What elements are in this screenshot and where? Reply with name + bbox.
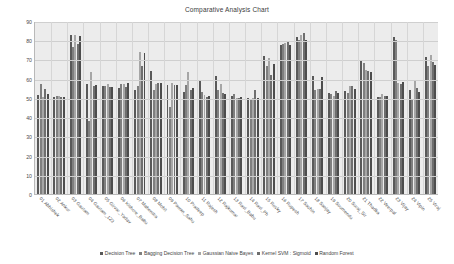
bar — [273, 64, 275, 194]
bar-group — [132, 22, 148, 194]
gridline-vertical — [213, 22, 214, 194]
plot-area: 0102030405060708090 — [34, 22, 438, 195]
gridline-vertical — [132, 22, 133, 194]
legend-swatch-icon — [315, 252, 318, 255]
x-axis-tick-label: 08 Mohit — [152, 196, 169, 213]
bars-layer — [35, 22, 438, 194]
bar — [192, 88, 194, 194]
bar-group — [35, 22, 51, 194]
legend-label: Bagging Decision Tree — [144, 250, 194, 256]
legend-label: Gaussian Naive Bayes — [203, 250, 254, 256]
gridline-horizontal — [35, 60, 438, 61]
gridline-vertical — [374, 22, 375, 194]
bar-group — [148, 22, 164, 194]
bar — [289, 45, 291, 194]
gridline-vertical — [342, 22, 343, 194]
y-axis-tick-label: 10 — [26, 173, 32, 179]
bar — [305, 40, 307, 194]
x-axis-tick-label: 25 Viraj — [426, 196, 441, 211]
chart-legend: Decision TreeBagging Decision TreeGaussi… — [0, 250, 454, 256]
legend-item[interactable]: Decision Tree — [100, 250, 135, 256]
y-axis-tick-label: 0 — [29, 192, 32, 198]
bar-group — [213, 22, 229, 194]
legend-item[interactable]: Bagging Decision Tree — [139, 250, 194, 256]
legend-item[interactable]: Random Forest — [315, 250, 354, 256]
gridline-vertical — [277, 22, 278, 194]
gridline-horizontal — [35, 22, 438, 23]
gridline-horizontal — [35, 80, 438, 81]
bar-group — [342, 22, 358, 194]
bar-group — [310, 22, 326, 194]
gridline-vertical — [261, 22, 262, 194]
bar-group — [391, 22, 407, 194]
y-axis-tick-label: 20 — [26, 154, 32, 160]
legend-swatch-icon — [257, 252, 260, 255]
bar — [224, 94, 226, 194]
bar-group — [326, 22, 342, 194]
legend-label: Kernel SVM : Sigmoid — [262, 250, 311, 256]
gridline-vertical — [83, 22, 84, 194]
chart-title: Comparative Analysis Chart — [0, 6, 454, 13]
y-axis-tick-label: 50 — [26, 96, 32, 102]
bar-group — [180, 22, 196, 194]
gridline-vertical — [197, 22, 198, 194]
gridline-vertical — [294, 22, 295, 194]
comparative-analysis-chart: Comparative Analysis Chart 0102030405060… — [0, 0, 454, 264]
legend-swatch-icon — [139, 252, 142, 255]
bar-group — [83, 22, 99, 194]
legend-label: Random Forest — [319, 250, 353, 256]
bar-group — [229, 22, 245, 194]
bar — [434, 65, 436, 194]
bar-group — [164, 22, 180, 194]
bar — [240, 97, 242, 194]
y-axis-tick-label: 60 — [26, 77, 32, 83]
gridline-vertical — [148, 22, 149, 194]
bar — [337, 93, 339, 194]
bar — [63, 97, 65, 194]
bar-group — [261, 22, 277, 194]
bar-group — [116, 22, 132, 194]
bar-group — [245, 22, 261, 194]
bar — [176, 85, 178, 194]
gridline-vertical — [326, 22, 327, 194]
bar-group — [197, 22, 213, 194]
legend-item[interactable]: Kernel SVM : Sigmoid — [257, 250, 310, 256]
x-axis-tick-label: 24 Vipin — [410, 196, 426, 212]
x-axis-tick-label: 06 Kishore_Babu — [119, 196, 149, 226]
gridline-vertical — [358, 22, 359, 194]
x-axis-labels: 01 Abhishek02 Ankur03 Gautam04 Gautam_12… — [34, 196, 438, 246]
bar-group — [277, 22, 293, 194]
legend-item[interactable]: Gaussian Naive Bayes — [198, 250, 253, 256]
gridline-vertical — [391, 22, 392, 194]
bar-group — [358, 22, 374, 194]
legend-label: Decision Tree — [105, 250, 136, 256]
gridline-vertical — [407, 22, 408, 194]
bar — [144, 53, 146, 194]
bar — [418, 92, 420, 194]
gridline-vertical — [100, 22, 101, 194]
gridline-horizontal — [35, 137, 438, 138]
legend-swatch-icon — [198, 252, 201, 255]
gridline-horizontal — [35, 41, 438, 42]
bar — [208, 96, 210, 194]
bar-group — [423, 22, 439, 194]
x-axis-tick-label: 23 Vijay — [394, 196, 410, 212]
gridline-vertical — [229, 22, 230, 194]
bar-group — [407, 22, 423, 194]
bar — [257, 98, 259, 194]
legend-swatch-icon — [100, 252, 103, 255]
gridline-horizontal — [35, 99, 438, 100]
gridline-vertical — [245, 22, 246, 194]
bar-group — [374, 22, 390, 194]
y-axis-tick-label: 80 — [26, 38, 32, 44]
bar — [386, 96, 388, 194]
gridline-horizontal — [35, 157, 438, 158]
bar — [111, 87, 113, 194]
bar — [95, 85, 97, 194]
bar-group — [100, 22, 116, 194]
gridline-vertical — [67, 22, 68, 194]
bar-group — [67, 22, 83, 194]
gridline-vertical — [180, 22, 181, 194]
bar — [47, 94, 49, 194]
gridline-horizontal — [35, 118, 438, 119]
